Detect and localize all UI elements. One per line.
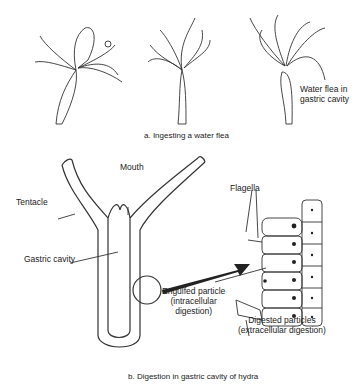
label-tentacle: Tentacle xyxy=(16,197,48,207)
label-flagella: Flagella xyxy=(230,183,260,193)
hydra-2-drawing xyxy=(148,18,210,124)
label-engulfed-particle: Engulfed particle (intracellular digesti… xyxy=(162,286,225,316)
label-gastric-cavity: Gastric cavity xyxy=(24,254,75,264)
hydra-1-drawing xyxy=(35,28,122,124)
label-digested-particles: Digested particles (extracellular digest… xyxy=(238,315,326,335)
label-engulfed-line2: (intracellular xyxy=(162,296,225,306)
caption-panel-b: b. Digestion in gastric cavity of hydra xyxy=(128,372,258,381)
label-water-flea-line1: Water flea in xyxy=(300,84,349,94)
label-water-flea-line2: gastric cavity xyxy=(300,94,349,104)
label-water-flea: Water flea in gastric cavity xyxy=(300,84,349,104)
hydra-section-drawing xyxy=(62,157,205,347)
label-digested-line1: Digested particles xyxy=(238,315,326,325)
label-mouth: Mouth xyxy=(120,162,144,172)
hydra-3-drawing xyxy=(250,15,325,124)
cell-detail-drawing xyxy=(236,190,322,326)
caption-panel-a: a. Ingesting a water flea xyxy=(144,131,229,140)
label-engulfed-line3: digestion) xyxy=(162,306,225,316)
label-digested-line2: (extracellular digestion) xyxy=(238,325,326,335)
label-engulfed-line1: Engulfed particle xyxy=(162,286,225,296)
